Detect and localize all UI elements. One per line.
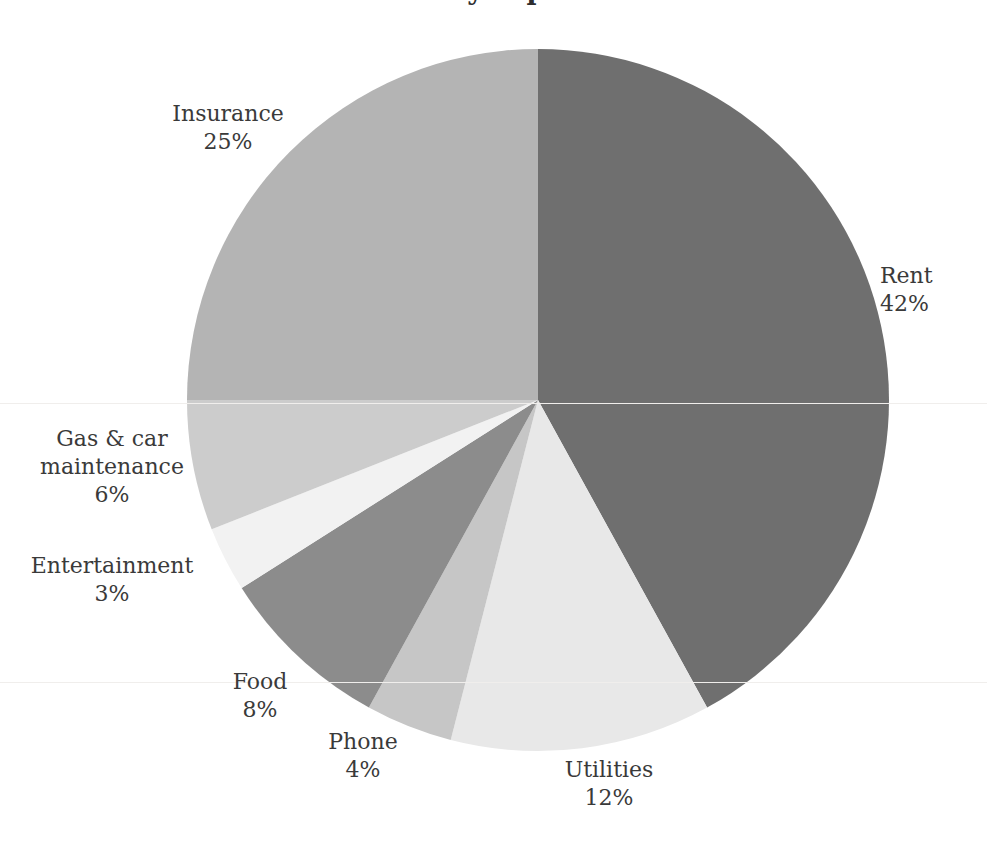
slice-label-phone-name: Phone (288, 728, 438, 756)
slice-label-entertainment: Entertainment 3% (6, 552, 218, 608)
pie-chart-figure: Monthly expenses Insurance 25% Rent 42% … (0, 0, 987, 846)
slice-label-gas-name-line1: Gas & car (6, 425, 218, 453)
slice-label-entertainment-value: 3% (6, 580, 218, 608)
slice-label-utilities: Utilities 12% (514, 756, 704, 812)
slice-label-gas-value: 6% (6, 481, 218, 509)
slice-label-food-value: 8% (188, 696, 332, 724)
slice-label-phone-value: 4% (288, 756, 438, 784)
slice-label-utilities-name: Utilities (514, 756, 704, 784)
slice-label-gas-and-car-maintenance: Gas & car maintenance 6% (6, 425, 218, 509)
slice-label-insurance: Insurance 25% (118, 100, 338, 156)
slice-label-rent-value: 42% (880, 290, 984, 318)
slice-label-utilities-value: 12% (514, 784, 704, 812)
slice-label-phone: Phone 4% (288, 728, 438, 784)
slice-label-entertainment-name: Entertainment (6, 552, 218, 580)
slice-label-food-name: Food (188, 668, 332, 696)
slice-label-insurance-name: Insurance (118, 100, 338, 128)
slice-label-rent-name: Rent (880, 262, 984, 290)
slice-label-insurance-value: 25% (118, 128, 338, 156)
slice-label-gas-name-line2: maintenance (6, 453, 218, 481)
slice-label-rent: Rent 42% (880, 262, 984, 318)
slice-label-food: Food 8% (188, 668, 332, 724)
